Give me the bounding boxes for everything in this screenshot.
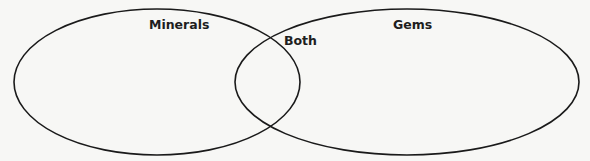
gems-label: Gems bbox=[393, 17, 432, 32]
minerals-label: Minerals bbox=[149, 17, 209, 32]
both-label: Both bbox=[284, 33, 317, 48]
venn-diagram: Minerals Both Gems bbox=[0, 0, 590, 161]
